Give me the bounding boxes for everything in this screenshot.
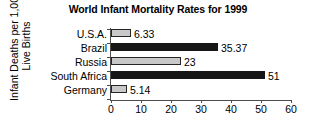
bar-germany bbox=[111, 85, 127, 93]
y-axis-tick-5 bbox=[107, 99, 110, 100]
chart-title: World Infant Mortality Rates for 1999 bbox=[42, 3, 274, 15]
infant-mortality-bar-chart: World Infant Mortality Rates for 1999 In… bbox=[0, 0, 313, 133]
bar-value-usa: 6.33 bbox=[134, 29, 154, 39]
bar-russia bbox=[111, 57, 181, 65]
x-axis-label-20: 20 bbox=[165, 104, 177, 115]
y-axis-tick-3 bbox=[107, 71, 110, 72]
category-label-usa: U.S.A. bbox=[26, 29, 107, 40]
plot-area: 6.33 35.37 23 51 5.14 0 10 20 30 40 50 6… bbox=[110, 28, 305, 100]
x-axis-label-40: 40 bbox=[225, 104, 237, 115]
y-axis-tick-1 bbox=[107, 43, 110, 44]
x-axis-label-30: 30 bbox=[195, 104, 207, 115]
x-axis-label-50: 50 bbox=[255, 104, 267, 115]
bar-brazil bbox=[111, 43, 218, 51]
x-axis-label-60: 60 bbox=[285, 104, 297, 115]
bar-value-germany: 5.14 bbox=[130, 85, 150, 95]
category-label-germany: Germany bbox=[26, 85, 107, 96]
y-axis-tick-2 bbox=[107, 57, 110, 58]
category-label-brazil: Brazil bbox=[26, 43, 107, 54]
category-axis-labels: U.S.A. Brazil Russia South Africa German… bbox=[26, 28, 107, 100]
bar-value-russia: 23 bbox=[184, 57, 196, 67]
category-label-russia: Russia bbox=[26, 57, 107, 68]
x-axis-label-0: 0 bbox=[108, 104, 114, 115]
category-label-south-africa: South Africa bbox=[26, 71, 107, 82]
y-axis-tick-4 bbox=[107, 85, 110, 86]
bar-usa bbox=[111, 29, 131, 37]
bar-value-south-africa: 51 bbox=[268, 71, 280, 81]
bar-south-africa bbox=[111, 71, 265, 79]
bar-value-brazil: 35.37 bbox=[221, 43, 247, 53]
y-axis-title-line-1: Infant Deaths per 1,000 bbox=[8, 0, 20, 101]
x-axis-label-10: 10 bbox=[135, 104, 147, 115]
y-axis-tick-0 bbox=[107, 29, 110, 30]
